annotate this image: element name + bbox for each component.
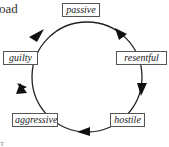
arrow-icon <box>137 83 147 96</box>
node-aggressive: aggressive <box>12 113 58 127</box>
arrow-icon <box>29 29 44 42</box>
arrow-icon <box>77 127 90 136</box>
node-hostile: hostile <box>110 113 145 127</box>
node-resentful: resentful <box>116 51 167 65</box>
arrow-icon <box>16 83 27 94</box>
node-guilty: guilty <box>3 51 38 65</box>
node-passive: passive <box>62 3 100 17</box>
text-fragment-bottom: rr <box>0 138 4 147</box>
